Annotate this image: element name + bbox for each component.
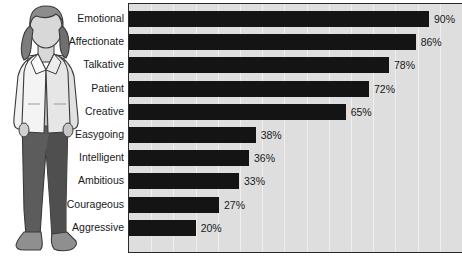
category-label: Courageous <box>44 199 124 210</box>
bar-value-label: 65% <box>351 107 372 118</box>
bar <box>129 11 429 27</box>
hair-left-strand <box>21 26 33 60</box>
bar <box>129 197 219 213</box>
category-label: Talkative <box>44 59 124 70</box>
bar <box>129 220 196 236</box>
bar-value-label: 86% <box>421 37 442 48</box>
chart-page: EmotionalAffectionateTalkativePatientCre… <box>0 0 462 260</box>
left-hand <box>19 123 29 137</box>
bar <box>129 173 239 189</box>
left-shoe <box>16 232 42 250</box>
category-label: Easygoing <box>44 129 124 140</box>
bar-value-label: 36% <box>254 153 275 164</box>
plot-area: 90%86%78%72%65%38%36%33%27%20% <box>128 3 462 253</box>
bar <box>129 34 416 50</box>
category-label: Creative <box>44 106 124 117</box>
bar <box>129 127 256 143</box>
bar <box>129 104 346 120</box>
bar-value-label: 38% <box>261 130 282 141</box>
bar-value-label: 33% <box>244 176 265 187</box>
category-label: Emotional <box>44 13 124 24</box>
bar-value-label: 27% <box>224 200 245 211</box>
bar <box>129 81 369 97</box>
category-label: Patient <box>44 83 124 94</box>
bar <box>129 150 249 166</box>
bar-value-label: 20% <box>201 223 222 234</box>
category-label: Aggressive <box>44 222 124 233</box>
category-label-column: EmotionalAffectionateTalkativePatientCre… <box>44 0 124 260</box>
category-label: Ambitious <box>44 175 124 186</box>
bars-layer: 90%86%78%72%65%38%36%33%27%20% <box>129 4 462 252</box>
bar <box>129 57 389 73</box>
bar-value-label: 72% <box>374 84 395 95</box>
bar-value-label: 78% <box>394 60 415 71</box>
bar-value-label: 90% <box>434 14 455 25</box>
category-label: Intelligent <box>44 152 124 163</box>
category-label: Affectionate <box>44 36 124 47</box>
